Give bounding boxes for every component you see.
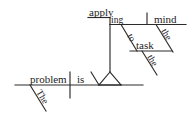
word-subject-article: The	[34, 88, 50, 106]
word-task-article: the	[145, 53, 160, 68]
word-prep-object: task	[136, 39, 154, 51]
diagram-canvas: apply ing mind to task the the problem i…	[0, 0, 194, 119]
word-verb: is	[77, 73, 84, 85]
predicate-complement-slant	[91, 72, 99, 85]
word-mind-article: the	[159, 27, 174, 42]
word-subject: problem	[30, 73, 67, 85]
pedestal-left-leg	[99, 72, 110, 85]
word-gerund-suffix: ing	[111, 15, 123, 25]
word-gerund-object: mind	[154, 13, 177, 25]
sentence-diagram: apply ing mind to task the the problem i…	[0, 0, 194, 119]
pedestal-right-leg	[110, 72, 121, 85]
